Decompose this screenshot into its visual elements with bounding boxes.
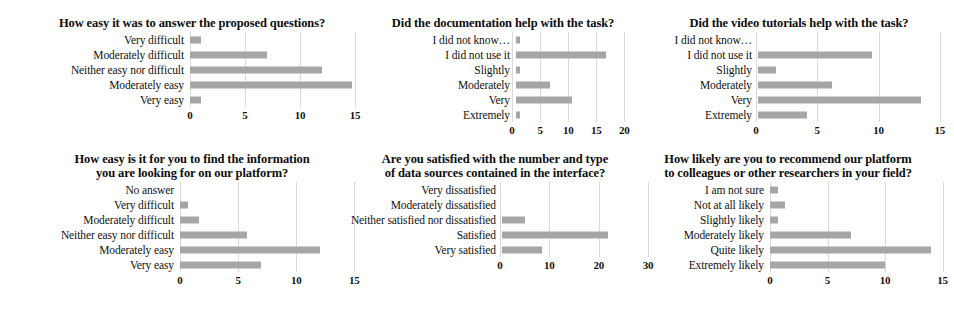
x-axis-tick-label: 5 <box>825 274 830 286</box>
bar-row: Slightly likely <box>622 212 954 227</box>
plot-area: I did not know…I did not use itSlightlyM… <box>644 32 954 138</box>
bar-row: No answer <box>18 182 366 197</box>
bar <box>758 51 872 58</box>
bar-row: Moderately difficult <box>18 47 366 62</box>
category-label: I am not sure <box>622 184 770 196</box>
category-label: Not at all likely <box>622 199 770 211</box>
x-axis-tick-label: 15 <box>591 124 602 136</box>
x-axis: 051015 <box>180 272 366 288</box>
x-axis-tick-label: 5 <box>235 274 240 286</box>
x-axis-tick-label: 10 <box>544 259 555 271</box>
category-label: Very difficult <box>18 199 180 211</box>
category-label: I did not use it <box>644 49 758 61</box>
x-axis-tick-label: 0 <box>177 274 182 286</box>
x-axis: 05101520 <box>512 122 630 138</box>
bar-row: Very satisfied <box>330 242 660 257</box>
x-axis: 051015 <box>756 122 952 138</box>
chart-title: Did the documentation help with the task… <box>372 16 634 30</box>
bar <box>516 81 550 88</box>
bar <box>758 66 776 73</box>
category-label: Moderately dissatisfied <box>330 199 502 211</box>
bar-track <box>770 242 954 257</box>
category-label: Moderately easy <box>18 79 190 91</box>
bar <box>770 201 785 208</box>
category-label: Slightly likely <box>622 214 770 226</box>
survey-charts-figure: How easy it was to answer the proposed q… <box>0 0 954 322</box>
x-axis-tick-label: 5 <box>815 124 820 136</box>
chart-panel-4: How easy is it for you to find the infor… <box>18 152 366 288</box>
bar-track <box>516 62 634 77</box>
bar <box>758 96 921 103</box>
category-label: Extremely <box>644 109 758 121</box>
bar-row: Extremely likely <box>622 257 954 272</box>
bar-track <box>758 47 954 62</box>
bar <box>758 111 807 118</box>
chart-panel-3: Did the video tutorials help with the ta… <box>644 16 954 138</box>
plot-area: Very difficultModerately difficultNeithe… <box>18 32 366 123</box>
category-label: Extremely likely <box>622 259 770 271</box>
bar-row: Moderately dissatisfied <box>330 197 660 212</box>
bar-track <box>758 107 954 122</box>
category-label: Very easy <box>18 259 180 271</box>
bar <box>502 231 608 238</box>
bar-row: Very difficult <box>18 197 366 212</box>
x-axis-tick-label: 20 <box>619 124 630 136</box>
bar-track <box>770 182 954 197</box>
category-label: Neither easy nor difficult <box>18 229 180 241</box>
bar <box>190 81 352 88</box>
category-label: I did not know… <box>644 34 758 46</box>
bar-track <box>516 32 634 47</box>
x-axis-tick-label: 15 <box>934 124 945 136</box>
category-label: Very easy <box>18 94 190 106</box>
bar <box>516 111 520 118</box>
bar-track <box>516 92 634 107</box>
bar <box>758 81 832 88</box>
bar-row: I did not use it <box>644 47 954 62</box>
category-label: Very satisfied <box>330 244 502 256</box>
x-axis-tick-label: 15 <box>350 109 361 121</box>
bar <box>180 231 247 238</box>
plot-area: I did not know…I did not use itSlightlyM… <box>372 32 634 138</box>
bar-row: Moderately <box>644 77 954 92</box>
plot-area: Very dissatisfiedModerately dissatisfied… <box>330 182 660 273</box>
chart-panel-2: Did the documentation help with the task… <box>372 16 634 138</box>
bar-track <box>758 32 954 47</box>
bar-row: Not at all likely <box>622 197 954 212</box>
x-axis-tick-label: 15 <box>937 274 948 286</box>
bar-rows: I did not know…I did not use itSlightlyM… <box>372 32 634 122</box>
chart-panel-1: How easy it was to answer the proposed q… <box>18 16 366 123</box>
category-label: Very <box>644 94 758 106</box>
bar-row: Neither satisfied nor dissatisfied <box>330 212 660 227</box>
bar-track <box>190 47 366 62</box>
category-label: No answer <box>18 184 180 196</box>
bar <box>190 36 201 43</box>
x-axis-tick-label: 0 <box>509 124 514 136</box>
x-axis-tick-label: 5 <box>537 124 542 136</box>
bar-track <box>516 77 634 92</box>
category-label: Very dissatisfied <box>330 184 502 196</box>
bar <box>502 246 542 253</box>
bar-row: Slightly <box>644 62 954 77</box>
bar-rows: I did not know…I did not use itSlightlyM… <box>644 32 954 122</box>
bar <box>516 96 572 103</box>
bar-row: Very easy <box>18 92 366 107</box>
x-axis-tick-label: 10 <box>880 274 891 286</box>
bar-track <box>190 92 366 107</box>
chart-panel-6: How likely are you to recommend our plat… <box>622 152 954 288</box>
plot-area: No answerVery difficultModerately diffic… <box>18 182 366 288</box>
bar-row: Moderately difficult <box>18 212 366 227</box>
bar-row: I am not sure <box>622 182 954 197</box>
bar-track <box>516 107 634 122</box>
bar <box>770 246 931 253</box>
chart-title: to colleagues or other researchers in yo… <box>622 166 954 180</box>
x-axis-tick-label: 10 <box>295 109 306 121</box>
bar <box>190 66 322 73</box>
chart-title: you are looking for on our platform? <box>18 166 366 180</box>
bar-rows: I am not sureNot at all likelySlightly l… <box>622 182 954 272</box>
bar <box>180 216 199 223</box>
bar <box>770 231 851 238</box>
bar-row: Moderately likely <box>622 227 954 242</box>
category-label: Neither satisfied nor dissatisfied <box>330 214 502 226</box>
chart-title: How easy is it for you to find the infor… <box>18 152 366 166</box>
bar-row: Very dissatisfied <box>330 182 660 197</box>
